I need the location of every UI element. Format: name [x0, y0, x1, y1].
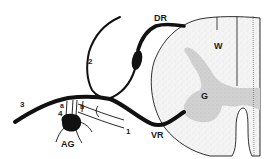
autonomic-ganglion	[62, 114, 82, 132]
label-ramus-a: a	[60, 102, 64, 109]
ag-branch-right-out	[80, 122, 92, 132]
label-branch-1: 1	[126, 128, 130, 136]
label-branch-4: 4	[58, 110, 62, 118]
spinal-nerve-diagram	[0, 0, 265, 159]
branch-1-upper	[78, 104, 124, 120]
label-ventral-root: VR	[151, 131, 164, 140]
label-white-matter: W	[214, 42, 223, 51]
label-gray-matter: G	[201, 92, 208, 101]
ramus-a-right	[72, 100, 73, 116]
branch-1-lower	[78, 112, 124, 128]
ag-branch-right-down	[76, 130, 82, 143]
label-autonomic-ganglion: AG	[61, 140, 75, 149]
dorsal-root-ganglion	[130, 49, 144, 71]
ramus-b-left	[76, 100, 77, 116]
label-dorsal-root: DR	[154, 14, 167, 23]
dorsal-root-distal	[108, 69, 135, 99]
label-ramus-b: b	[80, 103, 84, 110]
label-branch-2: 2	[88, 58, 92, 66]
label-branch-3: 3	[20, 101, 24, 109]
